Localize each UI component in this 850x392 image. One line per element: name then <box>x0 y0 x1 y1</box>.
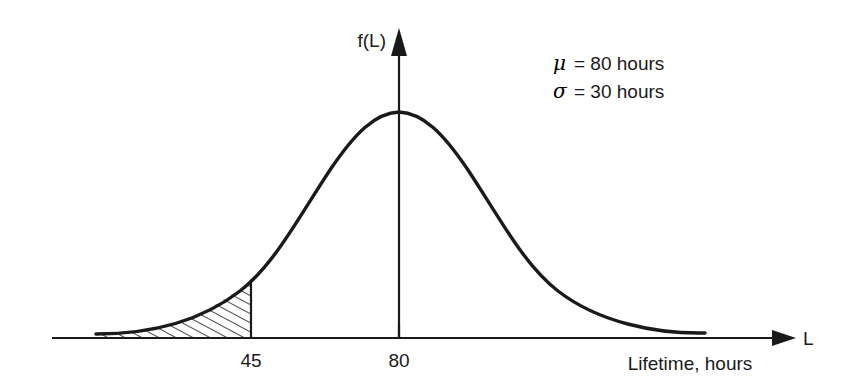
sigma-symbol: σ <box>553 79 568 103</box>
distribution-figure: 45 80 f(L) L Lifetime, hours μ = 80 hour… <box>0 0 850 392</box>
x-axis-label: L <box>803 328 814 349</box>
x-axis-caption: Lifetime, hours <box>628 353 753 374</box>
tick-label-45: 45 <box>240 350 261 371</box>
tick-label-80: 80 <box>388 350 409 371</box>
y-axis-label: f(L) <box>358 30 387 51</box>
parameter-annotations: μ = 80 hours σ = 30 hours <box>553 51 664 103</box>
y-axis <box>391 28 407 338</box>
sigma-equation: = 30 hours <box>574 81 664 102</box>
mean-equation: = 80 hours <box>574 53 664 74</box>
density-curve <box>96 112 705 334</box>
figure-canvas: 45 80 f(L) L Lifetime, hours μ = 80 hour… <box>0 0 850 392</box>
mean-symbol: μ <box>553 51 566 75</box>
